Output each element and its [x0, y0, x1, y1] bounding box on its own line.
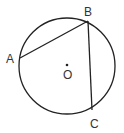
center-dot [66, 64, 69, 67]
chord-ab [20, 21, 88, 58]
circle-diagram: A B C O [0, 0, 124, 133]
chord-bc [88, 21, 92, 110]
label-b: B [84, 5, 92, 19]
label-a: A [6, 52, 14, 66]
label-o: O [63, 68, 72, 82]
label-c: C [90, 117, 99, 131]
